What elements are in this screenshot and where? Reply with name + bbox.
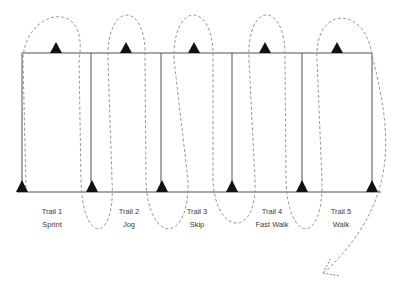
cone-triangle-icon — [188, 42, 200, 53]
cone-triangle-icon — [296, 180, 308, 192]
cone-triangle-icon — [366, 180, 378, 192]
trail-activity: Sprint — [22, 218, 82, 231]
trail-3-label: Trail 3 Skip — [167, 205, 227, 231]
cone-triangle-icon — [226, 180, 238, 192]
cone-triangle-icon — [120, 42, 132, 53]
trail-name: Trail 4 — [242, 205, 302, 218]
cone-triangle-icon — [259, 42, 271, 53]
bottom-cones — [16, 180, 378, 192]
cone-triangle-icon — [86, 180, 98, 192]
trail-name: Trail 1 — [22, 205, 82, 218]
trail-1-label: Trail 1 Sprint — [22, 205, 82, 231]
trail-activity: Jog — [99, 218, 159, 231]
trail-activity: Fast Walk — [242, 218, 302, 231]
dashed-route-path — [23, 15, 386, 272]
arrow-icon — [323, 258, 340, 276]
trail-activity: Walk — [311, 218, 371, 231]
trail-name: Trail 2 — [99, 205, 159, 218]
trail-2-label: Trail 2 Jog — [99, 205, 159, 231]
cone-triangle-icon — [156, 180, 168, 192]
trail-activity: Skip — [167, 218, 227, 231]
trail-name: Trail 5 — [311, 205, 371, 218]
cone-triangle-icon — [331, 42, 343, 53]
trail-5-label: Trail 5 Walk — [311, 205, 371, 231]
top-cones — [50, 42, 343, 53]
trail-4-label: Trail 4 Fast Walk — [242, 205, 302, 231]
trail-course-diagram: Trail 1 Sprint Trail 2 Jog Trail 3 Skip … — [0, 0, 397, 286]
course-lines — [0, 0, 397, 286]
trail-name: Trail 3 — [167, 205, 227, 218]
cone-triangle-icon — [50, 42, 62, 53]
